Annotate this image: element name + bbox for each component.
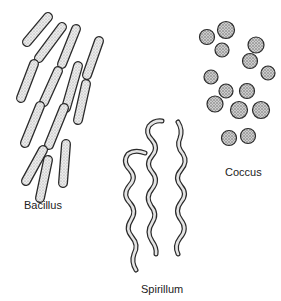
coccus-sphere-icon (241, 129, 256, 144)
bacteria-shapes-diagram: Bacillus Spirillum Coccus (0, 0, 281, 301)
bacillus-rod-icon (66, 66, 78, 108)
coccus-group (200, 22, 276, 146)
coccus-sphere-icon (200, 30, 215, 45)
diagram-canvas (0, 0, 281, 301)
coccus-sphere-icon (261, 66, 275, 80)
bacillus-rod-icon (49, 108, 64, 145)
bacillus-label: Bacillus (24, 199, 62, 211)
coccus-sphere-icon (248, 37, 264, 53)
coccus-sphere-icon (218, 22, 235, 39)
bacillus-rod-icon (63, 144, 66, 183)
bacillus-rod-icon (40, 160, 48, 198)
coccus-sphere-icon (243, 54, 258, 69)
coccus-label: Coccus (225, 166, 262, 178)
coccus-sphere-icon (219, 84, 233, 98)
coccus-sphere-icon (222, 131, 237, 146)
bacillus-group (21, 17, 99, 198)
bacillus-rod-icon (62, 29, 76, 64)
spirillum-group (125, 121, 185, 270)
bacillus-rod-icon (39, 27, 62, 58)
spirillum-spiral-icon (176, 122, 185, 254)
coccus-sphere-icon (240, 84, 255, 99)
bacillus-rod-icon (21, 64, 34, 98)
spirillum-label: Spirillum (141, 283, 183, 295)
coccus-sphere-icon (204, 70, 218, 84)
bacillus-rod-icon (87, 41, 99, 75)
coccus-sphere-icon (253, 102, 270, 119)
bacillus-rod-icon (27, 17, 48, 42)
spirillum-spiral-icon (148, 121, 162, 254)
bacillus-rod-icon (44, 71, 58, 102)
bacillus-rod-icon (78, 84, 86, 120)
bacillus-rod-icon (25, 106, 40, 143)
coccus-sphere-icon (231, 102, 248, 119)
coccus-sphere-icon (215, 43, 229, 57)
coccus-sphere-icon (207, 96, 223, 112)
spirillum-spiral-icon (125, 151, 145, 270)
